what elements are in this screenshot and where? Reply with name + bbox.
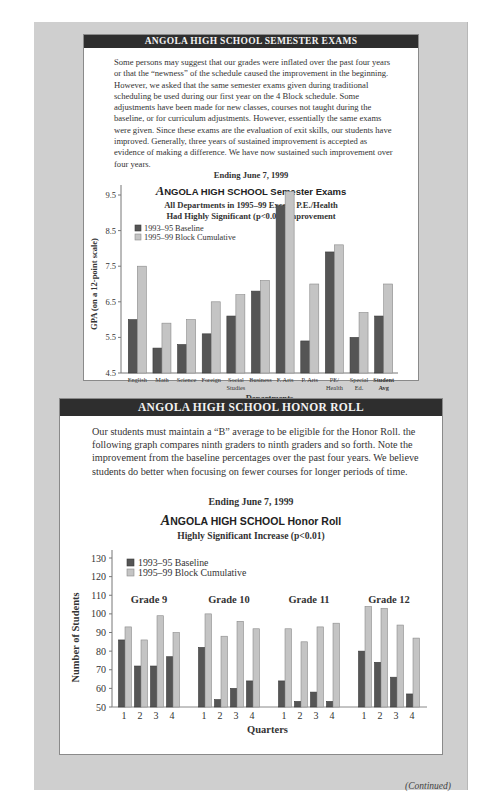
baseline-bar — [407, 694, 414, 707]
block-bar — [317, 627, 324, 707]
y-tick-label: 90 — [96, 627, 106, 638]
block-bar — [125, 627, 132, 707]
block-bar — [253, 629, 260, 707]
baseline-bar — [151, 666, 158, 707]
continued-label: (Continued) — [405, 781, 451, 791]
baseline-bar — [135, 666, 142, 707]
y-tick-label: 80 — [96, 646, 106, 657]
block-bar — [413, 638, 420, 707]
legend-baseline-swatch — [127, 559, 134, 566]
quarter-label: 1 — [362, 710, 367, 721]
grade-group-label: Grade 10 — [208, 594, 250, 605]
quarter-label: 2 — [298, 710, 303, 721]
baseline-bar — [391, 677, 398, 707]
block-bar — [381, 608, 388, 707]
block-bar — [141, 640, 148, 707]
baseline-bar — [311, 692, 318, 707]
honor-roll-chart: 5060708090100110120130Number of Students… — [0, 0, 484, 806]
quarter-label: 2 — [138, 710, 143, 721]
block-bar — [397, 625, 404, 707]
block-bar — [221, 636, 228, 707]
quarter-label: 1 — [202, 710, 207, 721]
baseline-bar — [247, 681, 254, 707]
quarter-label: 3 — [154, 710, 159, 721]
quarter-label: 2 — [218, 710, 223, 721]
legend-block-swatch — [127, 569, 134, 576]
grade-group-label: Grade 12 — [368, 594, 410, 605]
x-axis-label: Quarters — [247, 724, 288, 735]
y-tick-label: 100 — [91, 608, 106, 619]
quarter-label: 4 — [250, 710, 255, 721]
legend-label: 1995–99 Block Cumulative — [138, 567, 247, 578]
baseline-bar — [119, 640, 126, 707]
block-bar — [285, 629, 292, 707]
baseline-bar — [199, 647, 206, 707]
y-tick-label: 130 — [91, 553, 106, 564]
quarter-label: 2 — [378, 710, 383, 721]
block-bar — [173, 633, 180, 708]
baseline-bar — [375, 662, 382, 707]
quarter-label: 4 — [170, 710, 175, 721]
quarter-label: 3 — [234, 710, 239, 721]
block-bar — [333, 623, 340, 707]
y-tick-label: 110 — [91, 590, 106, 601]
block-bar — [237, 621, 244, 707]
baseline-bar — [167, 657, 174, 707]
baseline-bar — [279, 681, 286, 707]
baseline-bar — [215, 700, 222, 707]
baseline-bar — [327, 701, 334, 707]
grade-group-label: Grade 9 — [131, 594, 167, 605]
baseline-bar — [359, 651, 366, 707]
y-axis-label: Number of Students — [70, 592, 81, 682]
quarter-label: 1 — [282, 710, 287, 721]
quarter-label: 4 — [330, 710, 335, 721]
baseline-bar — [295, 701, 302, 707]
block-bar — [301, 642, 308, 707]
block-bar — [157, 616, 164, 707]
quarter-label: 1 — [122, 710, 127, 721]
baseline-bar — [231, 688, 238, 707]
grade-group-label: Grade 11 — [288, 594, 329, 605]
quarter-label: 4 — [410, 710, 415, 721]
quarter-label: 3 — [394, 710, 399, 721]
y-tick-label: 120 — [91, 571, 106, 582]
y-tick-label: 60 — [96, 683, 106, 694]
y-tick-label: 70 — [96, 664, 106, 675]
quarter-label: 3 — [314, 710, 319, 721]
y-tick-label: 50 — [96, 702, 106, 713]
block-bar — [365, 606, 372, 707]
block-bar — [205, 614, 212, 707]
